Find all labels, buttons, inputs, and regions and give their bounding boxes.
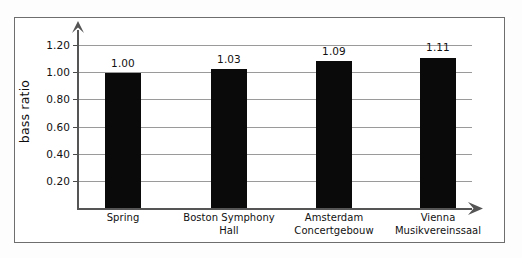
ytick-0_20: 0.20 [26, 176, 70, 186]
ytick-label: 0.40 [36, 149, 70, 159]
ytick-label: 0.20 [36, 176, 70, 186]
bar-value-vienna-musikvereinssaal: 1.11 [410, 42, 466, 53]
category-line: Amsterdam [282, 212, 386, 225]
y-axis-arrow-icon [71, 21, 85, 34]
category-label-spring: Spring [83, 212, 163, 225]
bar-value-boston-symphony-hall: 1.03 [201, 54, 257, 65]
x-axis-line [77, 208, 472, 210]
ytick-label: 1.20 [36, 40, 70, 50]
bar-spring [105, 73, 141, 208]
bar-value-amsterdam-concertgebouw: 1.09 [306, 46, 362, 57]
y-axis-line [77, 30, 79, 210]
plot-area: 1.20 1.00 0.80 0.60 0.40 0.20 [0, 0, 522, 258]
category-line: Spring [83, 212, 163, 225]
bar-vienna-musikvereinssaal [420, 58, 456, 208]
bar-value-spring: 1.00 [95, 58, 151, 69]
category-line: Vienna [384, 212, 492, 225]
category-label-boston-symphony-hall: Boston Symphony Hall [179, 212, 279, 237]
ytick-label: 0.60 [36, 122, 70, 132]
ytick-label: 0.80 [36, 94, 70, 104]
category-label-vienna-musikvereinssaal: Vienna Musikvereinssaal [384, 212, 492, 237]
ytick-0_40: 0.40 [26, 149, 70, 159]
category-line: Concertgebouw [282, 225, 386, 238]
category-line: Musikvereinssaal [384, 225, 492, 238]
ytick-0_80: 0.80 [26, 94, 70, 104]
category-line: Boston Symphony [179, 212, 279, 225]
ytick-0_60: 0.60 [26, 122, 70, 132]
y-axis-title: bass ratio [17, 65, 32, 159]
category-line: Hall [179, 225, 279, 238]
ytick-label: 1.00 [36, 67, 70, 77]
ytick-1_00: 1.00 [26, 67, 70, 77]
bar-boston-symphony-hall [211, 69, 247, 208]
figure-container: 1.20 1.00 0.80 0.60 0.40 0.20 [0, 0, 522, 258]
ytick-1_20: 1.20 [26, 40, 70, 50]
bar-amsterdam-concertgebouw [316, 61, 352, 208]
category-label-amsterdam-concertgebouw: Amsterdam Concertgebouw [282, 212, 386, 237]
